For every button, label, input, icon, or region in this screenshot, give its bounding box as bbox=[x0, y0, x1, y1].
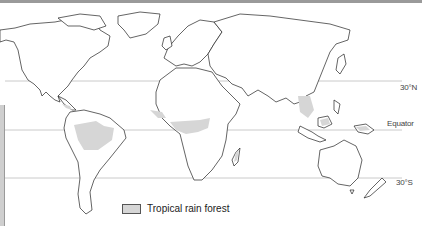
latitude-label-30s: 30°S bbox=[396, 178, 413, 187]
landmass-new-zealand bbox=[364, 178, 386, 198]
legend-label-rainforest: Tropical rain forest bbox=[147, 203, 229, 214]
landmass-indonesia bbox=[298, 126, 326, 142]
map-legend: Tropical rain forest bbox=[122, 203, 229, 214]
landmass-greenland bbox=[118, 12, 160, 38]
world-map bbox=[0, 0, 422, 226]
latitude-label-30n: 30°N bbox=[400, 83, 417, 92]
latitude-label-equator: Equator bbox=[387, 119, 414, 128]
landmass-tasmania bbox=[350, 190, 354, 194]
landmass-japan bbox=[336, 54, 346, 74]
continent-australia bbox=[318, 140, 362, 186]
continent-asia bbox=[208, 14, 350, 104]
legend-swatch-rainforest bbox=[122, 204, 141, 214]
landmass-philippines bbox=[334, 100, 340, 114]
rainforest-southeast-asia bbox=[298, 96, 314, 118]
continent-north-america bbox=[0, 18, 110, 102]
